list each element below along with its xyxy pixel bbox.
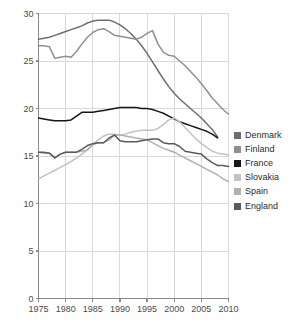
- legend-swatch-icon: [234, 174, 241, 181]
- legend-swatch-icon: [234, 188, 241, 195]
- x-tick-label: 1995: [137, 304, 157, 314]
- legend-item[interactable]: Spain: [234, 185, 295, 199]
- x-tick-label: 2010: [218, 304, 238, 314]
- y-tick-label: 20: [23, 104, 33, 114]
- series-line: [39, 29, 229, 115]
- legend-item[interactable]: Slovakia: [234, 171, 295, 185]
- x-axis-tick-labels: 19751980198519901995200020052010: [28, 304, 238, 314]
- x-tick-label: 1980: [56, 304, 76, 314]
- legend-item-label: Finland: [245, 145, 275, 154]
- legend-item-label: Spain: [245, 187, 268, 196]
- legend-item-label: Denmark: [245, 131, 282, 140]
- legend-item[interactable]: Denmark: [234, 128, 295, 142]
- y-tick-label: 10: [23, 199, 33, 209]
- y-tick-label: 15: [23, 151, 33, 161]
- legend-item[interactable]: France: [234, 156, 295, 170]
- chart-legend: DenmarkFinlandFranceSlovakiaSpainEngland: [234, 128, 295, 213]
- y-tick-label: 5: [28, 246, 33, 256]
- y-tick-label: 25: [23, 56, 33, 66]
- y-tick-label: 30: [23, 9, 33, 19]
- series-line: [39, 118, 229, 179]
- x-tick-label: 1990: [110, 304, 130, 314]
- legend-item-label: Slovakia: [245, 173, 279, 182]
- x-tick-label: 2000: [164, 304, 184, 314]
- legend-swatch-icon: [234, 203, 241, 210]
- x-tick-label: 1985: [83, 304, 103, 314]
- series-line: [39, 135, 229, 166]
- data-series-lines: [39, 20, 229, 182]
- y-tick-label: 0: [28, 294, 33, 304]
- legend-swatch-icon: [234, 160, 241, 167]
- y-axis-tick-labels: 051015202530: [23, 9, 33, 304]
- legend-item[interactable]: Finland: [234, 142, 295, 156]
- legend-item-label: England: [245, 202, 278, 211]
- legend-swatch-icon: [234, 146, 241, 153]
- legend-item-label: France: [245, 159, 273, 168]
- legend-item[interactable]: England: [234, 199, 295, 213]
- line-chart: 051015202530 197519801985199019952000200…: [0, 0, 295, 329]
- legend-swatch-icon: [234, 132, 241, 139]
- x-tick-label: 1975: [28, 304, 48, 314]
- x-tick-label: 2005: [191, 304, 211, 314]
